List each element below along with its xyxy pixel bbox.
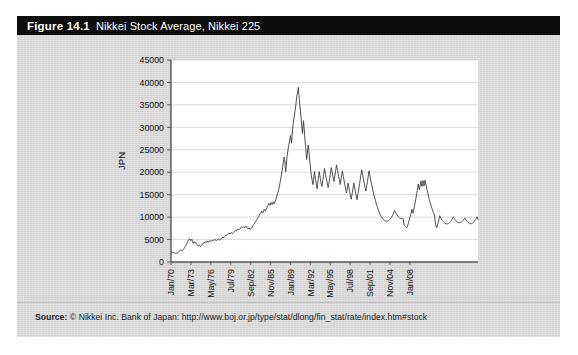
source-divider (17, 302, 560, 303)
x-tick-label: Sep/82 (246, 269, 256, 297)
figure-title-bar: Figure 14.1 Nikkei Stock Average, Nikkei… (17, 16, 560, 35)
page-title: Nikkei Stock Average, Nikkei 225 (90, 20, 260, 32)
x-tick-label: Jan/08 (405, 269, 415, 296)
x-tick-label: Nov/85 (266, 269, 276, 297)
y-tick-label: 40000 (140, 78, 165, 88)
x-tick-label: Jan/70 (166, 269, 176, 296)
chart-area: 0500010000150002000025000300003500040000… (17, 35, 560, 337)
y-tick-label: 0 (159, 257, 164, 267)
figure-container: Figure 14.1 Nikkei Stock Average, Nikkei… (0, 0, 578, 355)
x-tick-label: May/95 (325, 269, 335, 298)
x-tick-label: May/76 (206, 269, 216, 298)
nikkei-line-chart: 0500010000150002000025000300003500040000… (17, 35, 560, 337)
source-note: Source: © Nikkei Inc. Bank of Japan: htt… (35, 312, 427, 322)
source-text: © Nikkei Inc. Bank of Japan: http://www.… (70, 312, 427, 322)
x-tick-label: Sep/01 (365, 269, 375, 297)
y-tick-label: 25000 (140, 145, 165, 155)
plot-background (171, 60, 478, 262)
x-tick-label: Jan/89 (286, 269, 296, 296)
source-label: Source: (35, 312, 67, 322)
y-tick-label: 15000 (140, 190, 165, 200)
y-axis-title: JPN (116, 152, 127, 170)
y-tick-label: 10000 (140, 212, 165, 222)
y-tick-label: 20000 (140, 167, 165, 177)
x-tick-label: Mar/73 (186, 269, 196, 296)
figure-panel: 0500010000150002000025000300003500040000… (17, 35, 560, 337)
y-tick-label: 45000 (140, 55, 165, 65)
y-tick-label: 30000 (140, 123, 165, 133)
x-tick-label: Jul/79 (226, 269, 236, 293)
figure-number: Figure 14.1 (17, 20, 90, 32)
x-tick-label: Nov/04 (385, 269, 395, 297)
y-tick-label: 35000 (140, 100, 165, 110)
x-tick-label: Jul/98 (345, 269, 355, 293)
y-tick-label: 5000 (144, 235, 164, 245)
x-tick-label: Mar/92 (306, 269, 316, 296)
